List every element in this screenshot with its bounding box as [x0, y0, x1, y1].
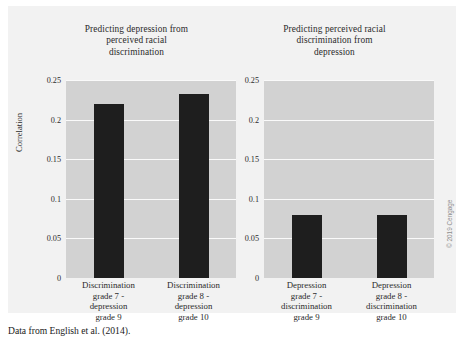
y-axis-ticks-left: 0.25 0.2 0.15 0.1 0.05 0 — [34, 80, 64, 278]
y-axis-title: Correlation — [14, 113, 24, 152]
y-tick-label: 0.2 — [51, 115, 61, 124]
y-tick-label: 0.05 — [47, 234, 61, 243]
chart-title-right-line-2: discrimination from — [232, 35, 437, 46]
chart-title-right-line-3: depression — [232, 47, 437, 58]
figure-panel: Predicting depression from perceived rac… — [8, 6, 456, 313]
x-tick-label: Depression grade 7 - discrimination grad… — [270, 280, 344, 322]
chart-title-right-line-1: Predicting perceived racial — [232, 24, 437, 35]
copyright-notice: © 2019 Cengage — [446, 200, 453, 248]
x-tick-label: Discrimination grade 8 - depression grad… — [157, 280, 231, 322]
y-tick-label: 0 — [255, 274, 259, 283]
x-tick-label-line: grade 7 - — [270, 291, 344, 302]
x-axis-labels-left: Discrimination grade 7 - depression grad… — [66, 280, 236, 322]
x-tick-label-line: grade 9 — [72, 312, 146, 323]
x-tick-label: Discrimination grade 7 - depression grad… — [72, 280, 146, 322]
y-axis-ticks-right: 0.25 0.2 0.15 0.1 0.05 0 — [232, 80, 262, 278]
x-tick-label-line: Depression — [270, 280, 344, 291]
x-tick-label-line: discrimination — [355, 301, 429, 312]
y-tick-label: 0 — [57, 274, 61, 283]
bars-layer-left — [66, 80, 236, 278]
figure-caption: Data from English et al. (2014). — [8, 325, 130, 336]
x-tick-label-line: discrimination — [270, 301, 344, 312]
x-tick-label-line: Discrimination — [72, 280, 146, 291]
bar — [292, 215, 322, 278]
x-tick-label-line: grade 10 — [157, 312, 231, 323]
plot-area-left — [66, 80, 236, 278]
chart-title-left-line-2: perceived racial — [34, 35, 239, 46]
x-tick-label-line: grade 9 — [270, 312, 344, 323]
chart-title-left: Predicting depression from perceived rac… — [34, 24, 239, 58]
y-tick-label: 0.2 — [249, 115, 259, 124]
x-tick-label-line: depression — [157, 301, 231, 312]
chart-title-left-line-1: Predicting depression from — [34, 24, 239, 35]
x-tick-label-line: grade 8 - — [355, 291, 429, 302]
chart-panel-right: Predicting perceived racial discriminati… — [232, 24, 437, 299]
bar — [94, 104, 124, 278]
bar — [179, 94, 209, 278]
chart-panel-left: Predicting depression from perceived rac… — [34, 24, 239, 299]
y-tick-label: 0.25 — [245, 76, 259, 85]
y-tick-label: 0.25 — [47, 76, 61, 85]
x-tick-label-line: Discrimination — [157, 280, 231, 291]
bar — [377, 215, 407, 278]
plot-area-right — [264, 80, 434, 278]
x-axis-labels-right: Depression grade 7 - discrimination grad… — [264, 280, 434, 322]
x-tick-label-line: Depression — [355, 280, 429, 291]
bars-layer-right — [264, 80, 434, 278]
x-tick-label-line: grade 8 - — [157, 291, 231, 302]
y-tick-label: 0.15 — [245, 155, 259, 164]
x-tick-label-line: depression — [72, 301, 146, 312]
chart-title-right: Predicting perceived racial discriminati… — [232, 24, 437, 58]
y-tick-label: 0.1 — [51, 194, 61, 203]
chart-title-left-line-3: discrimination — [34, 47, 239, 58]
x-tick-label-line: grade 7 - — [72, 291, 146, 302]
y-tick-label: 0.1 — [249, 194, 259, 203]
y-tick-label: 0.05 — [245, 234, 259, 243]
y-tick-label: 0.15 — [47, 155, 61, 164]
x-tick-label: Depression grade 8 - discrimination grad… — [355, 280, 429, 322]
x-tick-label-line: grade 10 — [355, 312, 429, 323]
